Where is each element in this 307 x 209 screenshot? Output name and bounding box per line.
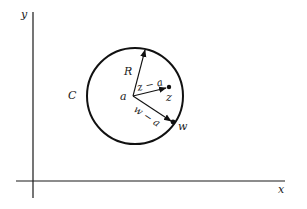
point-w-label: w [178, 120, 188, 133]
center-label: a [120, 90, 127, 103]
x-axis-label: x [278, 183, 285, 196]
y-axis-label: y [20, 8, 28, 21]
z-minus-a-label: z − a [135, 76, 164, 93]
diagram-canvas: y x C a R z − a z w − a w [0, 0, 307, 209]
point-z [167, 85, 171, 89]
point-z-label: z [165, 91, 172, 104]
radius-label: R [123, 65, 132, 78]
point-w [171, 120, 176, 125]
circle-label: C [68, 89, 77, 102]
w-minus-a-label: w − a [132, 103, 163, 128]
